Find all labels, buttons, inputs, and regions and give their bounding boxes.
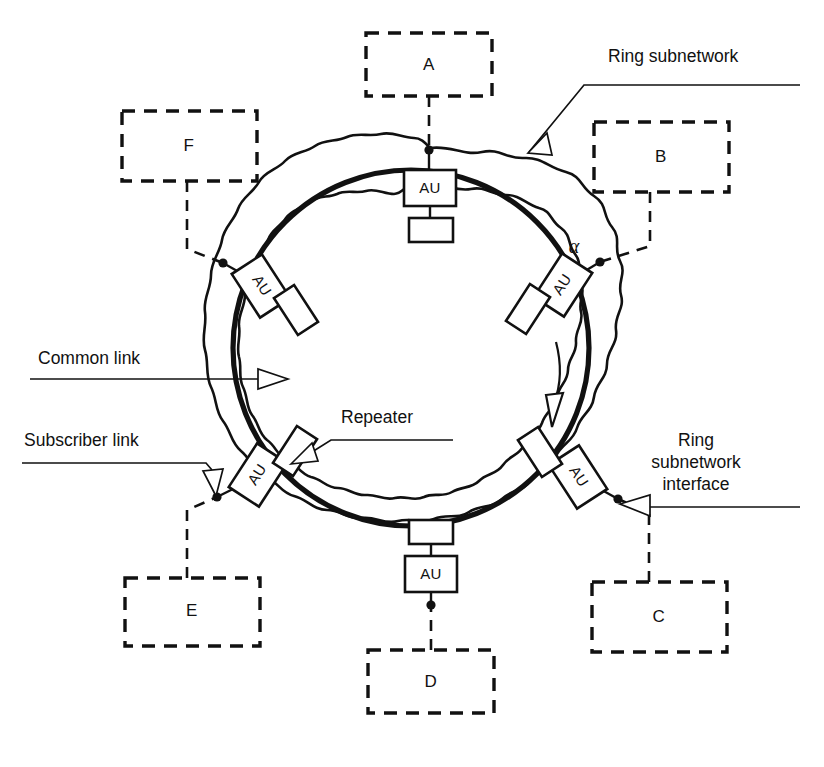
annotation-repeater: Repeater (291, 407, 453, 464)
station-f-label: F (184, 136, 195, 155)
alpha-marker-label: α (569, 235, 580, 257)
repeater-f[interactable] (274, 285, 318, 335)
station-e[interactable]: E AU (125, 426, 317, 646)
access-unit-a-label: AU (419, 179, 440, 196)
station-a-label: A (423, 55, 435, 74)
ring-subnetwork-arrowhead (528, 133, 552, 155)
diagram-canvas: A AU B α (0, 0, 824, 767)
ring-interface-label-line3: interface (662, 474, 729, 494)
repeater-label: Repeater (341, 407, 413, 427)
subscriber-link-e (187, 497, 217, 578)
subscriber-link-arrowhead (203, 469, 223, 496)
station-f[interactable]: F AU (122, 111, 318, 335)
station-d-label: D (425, 672, 438, 691)
station-e-label: E (186, 601, 198, 620)
repeater-b[interactable] (506, 284, 550, 334)
repeater-leader (312, 440, 453, 452)
station-d[interactable]: D AU (368, 520, 494, 713)
annotation-ring-subnetwork: Ring subnetwork (528, 46, 800, 155)
common-link-arrowhead (258, 369, 288, 389)
ring-subnetwork-figure: A AU B α (0, 0, 824, 767)
ring-interface-label-line2: subnetwork (651, 452, 741, 472)
annotation-subscriber-link: Subscriber link (22, 430, 223, 496)
common-link-label: Common link (38, 348, 140, 368)
repeater-a[interactable] (409, 218, 453, 242)
annotation-ring-interface: Ring subnetwork interface (620, 430, 800, 516)
ring-subnetwork-label: Ring subnetwork (608, 46, 739, 66)
station-b-label: B (655, 147, 667, 166)
subscriber-link-label: Subscriber link (24, 430, 139, 450)
ring-direction-arrow (546, 342, 563, 427)
station-a[interactable]: A AU (366, 33, 492, 242)
station-c-label: C (653, 607, 666, 626)
subscriber-link-leader (22, 463, 212, 470)
repeater-d[interactable] (409, 520, 453, 544)
ring-interface-label-line1: Ring (678, 430, 714, 450)
repeater-c[interactable] (518, 427, 562, 477)
subscriber-link-b (600, 192, 650, 262)
ring-subnetwork-leader (529, 85, 800, 152)
access-unit-d-label: AU (420, 565, 441, 582)
ring-interface-arrowhead (620, 495, 650, 516)
annotation-common-link: Common link (30, 348, 288, 389)
